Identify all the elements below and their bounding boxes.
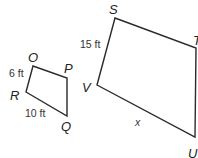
vertex-label-u: U	[188, 146, 198, 158]
vertex-label-s: S	[109, 2, 118, 17]
vertex-label-t: T	[193, 33, 198, 48]
vertex-label-o: O	[28, 50, 38, 65]
quadrilateral-stuv	[97, 18, 196, 137]
vertex-label-q: Q	[61, 119, 71, 134]
similar-quadrilaterals-diagram: O P Q R S T U V 6 ft 10 ft 15 ft x	[0, 0, 198, 158]
side-length-sv: 15 ft	[80, 38, 101, 50]
side-length-rq: 10 ft	[25, 107, 46, 119]
side-length-vu-unknown: x	[134, 116, 141, 128]
vertex-label-p: P	[64, 61, 73, 76]
side-length-or: 6 ft	[9, 67, 24, 79]
vertex-label-v: V	[82, 80, 92, 95]
vertex-label-r: R	[10, 88, 19, 103]
